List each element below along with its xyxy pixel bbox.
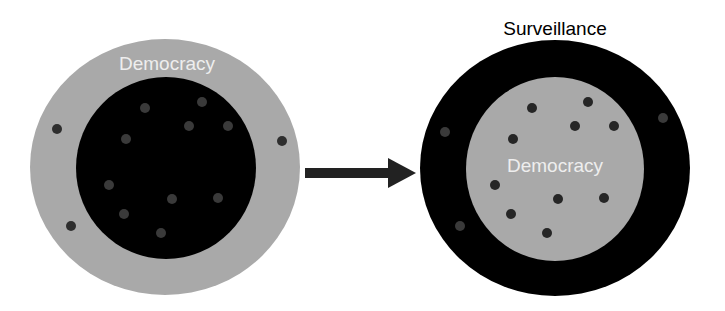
left-outer-label: Democracy (119, 53, 216, 74)
diagram-canvas: Democracy Surveillance Democrac (0, 0, 725, 311)
right-inner-label: Democracy (507, 155, 604, 176)
left-inner-circle (76, 77, 256, 259)
arrow-icon (305, 158, 416, 188)
left-diagram: Democracy (30, 39, 300, 295)
right-outer-label: Surveillance (503, 18, 607, 39)
right-diagram: Surveillance Democracy (420, 18, 690, 296)
